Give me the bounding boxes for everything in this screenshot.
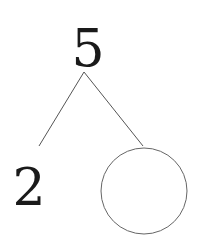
part-number-left: 2 — [12, 157, 45, 217]
empty-part-circle[interactable] — [101, 148, 187, 234]
right-branch-line — [84, 72, 143, 146]
left-branch-line — [39, 72, 84, 146]
whole-number: 5 — [71, 18, 104, 78]
number-bond-diagram: 5 2 — [0, 0, 205, 246]
